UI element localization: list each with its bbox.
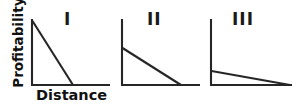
panel-label-i: I [64, 11, 71, 28]
panel-ii-trend-line [123, 48, 182, 85]
panel-iii-trend-line [212, 71, 291, 85]
x-axis-label: Distance [36, 88, 107, 103]
panel-i-trend-line [33, 21, 74, 85]
y-axis-label: Profitability [12, 12, 26, 88]
figure-container: I II III Profitability Distance [0, 0, 303, 108]
panel-label-ii: II [147, 11, 162, 28]
panel-label-iii: III [232, 11, 254, 28]
